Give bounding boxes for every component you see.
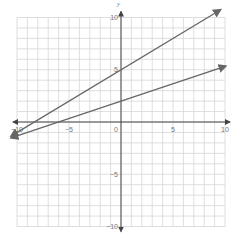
x-tick-label: −5 bbox=[65, 126, 73, 133]
x-tick-label: 0 bbox=[114, 126, 118, 133]
y-tick-label: 10 bbox=[110, 14, 118, 21]
y-tick-label: −5 bbox=[110, 171, 118, 178]
coordinate-plane: y −10−50510105−5−10 bbox=[0, 0, 236, 233]
plotted-line-2 bbox=[12, 66, 225, 137]
plotted-line-1 bbox=[12, 10, 220, 135]
plotted-lines bbox=[12, 10, 225, 137]
y-axis-label: y bbox=[116, 0, 121, 8]
x-tick-label: 10 bbox=[221, 126, 229, 133]
y-tick-label: −10 bbox=[106, 223, 118, 230]
x-tick-label: 5 bbox=[171, 126, 175, 133]
